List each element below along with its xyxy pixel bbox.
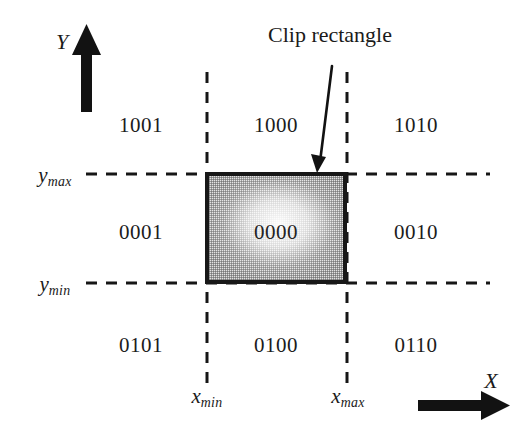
y-max-symbol: y [38,163,47,187]
region-code-bottom-right: 0110 [394,335,437,356]
region-code-top-center: 1000 [254,115,298,136]
y-axis-label: Y [56,31,68,53]
region-code-bottom-center: 0100 [254,335,298,356]
y-axis-arrow-icon [72,24,101,112]
region-code-middle-center: 0000 [254,222,298,243]
region-code-bottom-left: 0101 [119,335,163,356]
y-min-subscript: min [49,283,71,298]
x-min-label: xmin [191,386,222,407]
caption-pointer-arrow-icon [311,66,332,173]
x-min-symbol: x [191,384,200,408]
region-code-middle-right: 0010 [394,222,438,243]
x-min-subscript: min [201,395,223,410]
x-max-subscript: max [341,395,365,410]
y-min-symbol: y [39,272,48,296]
y-max-label: ymax [38,165,71,186]
region-code-middle-left: 0001 [119,222,163,243]
x-axis-arrow-icon [418,391,510,420]
x-max-label: xmax [331,386,364,407]
figure-canvas: Clip rectangle Y X ymax ymin xmin xmax 1… [0,0,528,435]
x-axis-label: X [484,370,497,392]
region-code-top-right: 1010 [394,115,438,136]
y-max-subscript: max [48,174,72,189]
clip-rectangle-caption: Clip rectangle [268,24,392,46]
region-code-top-left: 1001 [119,115,163,136]
y-min-label: ymin [39,274,70,295]
x-max-symbol: x [331,384,340,408]
